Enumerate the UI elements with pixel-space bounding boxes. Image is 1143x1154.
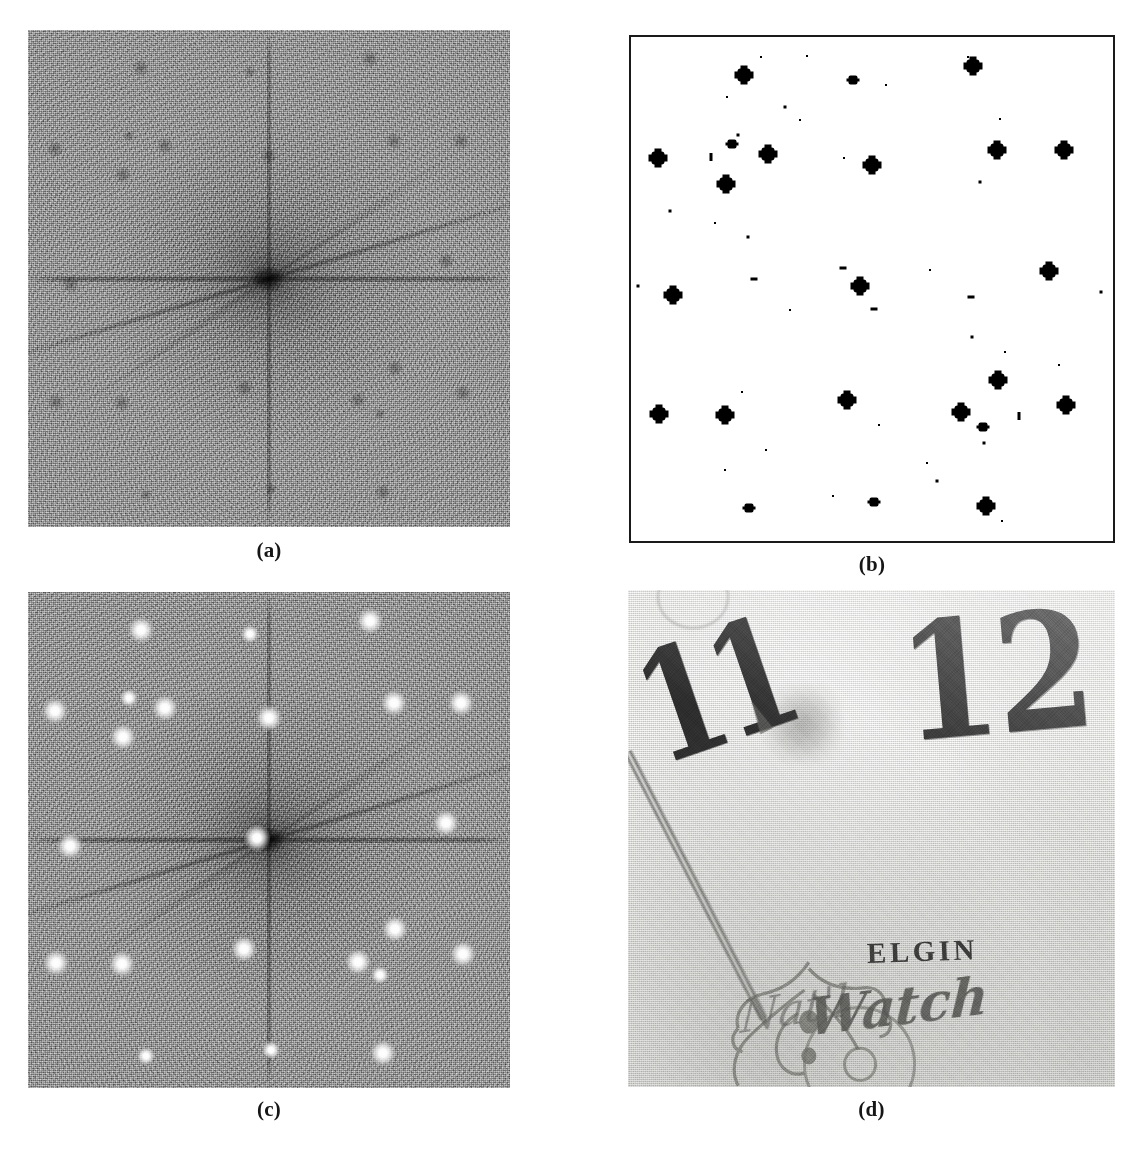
- peak-blob: [724, 469, 726, 471]
- peak-blob: [784, 105, 787, 108]
- panel-c: [28, 592, 510, 1088]
- peak-blob: [870, 498, 879, 507]
- peak-blob: [737, 134, 740, 137]
- peak-blob: [750, 277, 757, 280]
- peak-blob: [840, 266, 847, 269]
- peak-blob: [1058, 364, 1060, 366]
- peak-blob: [982, 441, 985, 444]
- peak-blob: [971, 335, 974, 338]
- photo-grain: [628, 590, 1115, 1087]
- fourier-spectrum-a: [28, 30, 510, 527]
- caption-b: (b): [629, 552, 1115, 577]
- binary-peak-map-b: [629, 35, 1115, 543]
- peak-blob: [992, 373, 1005, 386]
- peak-blob: [866, 159, 879, 172]
- peak-blob: [652, 407, 665, 420]
- figure-panel-grid: (a) (b) (c): [0, 0, 1143, 1154]
- fourier-spectrum-c: [28, 592, 510, 1088]
- peak-blob: [967, 56, 969, 58]
- caption-a: (a): [28, 538, 510, 563]
- peak-blob: [991, 143, 1004, 156]
- peak-blob: [762, 148, 775, 161]
- peak-blob: [978, 422, 987, 431]
- film-grain-fine-c: [28, 592, 510, 1088]
- peak-blob: [936, 479, 939, 482]
- peak-blob: [667, 289, 680, 302]
- peak-blob: [854, 280, 867, 293]
- peak-blob: [765, 449, 767, 451]
- peak-blob: [979, 181, 982, 184]
- peak-blob: [967, 295, 974, 298]
- caption-c: (c): [28, 1097, 510, 1122]
- watch-face-photo: 11 12 Nat'l: [628, 590, 1115, 1087]
- peak-blob: [747, 235, 750, 238]
- peak-blob: [745, 504, 754, 513]
- peak-blob: [832, 495, 834, 497]
- peak-blob: [1004, 351, 1006, 353]
- peak-blob: [799, 119, 801, 121]
- film-grain-fine-a: [28, 30, 510, 527]
- peak-blob: [885, 84, 887, 86]
- peak-blob: [929, 269, 931, 271]
- peak-blob: [841, 393, 854, 406]
- peak-blob: [651, 151, 664, 164]
- peak-blob: [999, 118, 1001, 120]
- peak-blob: [1057, 143, 1070, 156]
- peak-blob: [926, 462, 928, 464]
- peak-blob: [954, 406, 967, 419]
- panel-d: 11 12 Nat'l: [628, 590, 1115, 1087]
- peak-blob: [718, 409, 731, 422]
- peak-blob: [806, 55, 808, 57]
- peak-blob: [668, 209, 671, 212]
- peak-blob: [741, 391, 743, 393]
- peak-blob: [1043, 265, 1056, 278]
- peak-blob: [843, 157, 845, 159]
- panel-a-image: [28, 30, 510, 527]
- peak-blob: [714, 222, 716, 224]
- peak-blob: [966, 60, 979, 73]
- peak-blob: [1099, 290, 1102, 293]
- panel-c-image: [28, 592, 510, 1088]
- peak-blob: [760, 56, 762, 58]
- peak-blob: [709, 153, 712, 161]
- peak-blob: [737, 69, 750, 82]
- peak-blob: [789, 309, 791, 311]
- peak-blob: [726, 96, 728, 98]
- peak-blob: [719, 178, 732, 191]
- panel-b: [629, 35, 1115, 543]
- peak-blob: [871, 308, 878, 311]
- peak-blob: [728, 140, 737, 149]
- peak-blob: [848, 75, 857, 84]
- peak-blob: [1059, 398, 1072, 411]
- caption-d: (d): [628, 1097, 1115, 1122]
- peak-blob: [878, 424, 880, 426]
- peak-blob: [637, 285, 640, 288]
- peak-blob: [1018, 412, 1021, 420]
- panel-a: [28, 30, 510, 527]
- peak-blob: [1001, 520, 1003, 522]
- peak-blob: [980, 499, 993, 512]
